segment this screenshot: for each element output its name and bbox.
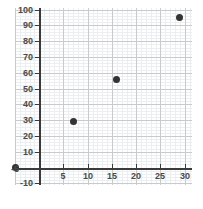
y-tick-label: 30	[0, 116, 33, 125]
y-tick-mark	[35, 41, 39, 42]
gridline-major-vertical	[88, 8, 89, 185]
major-gridlines	[15, 8, 192, 185]
x-tick-label: 20	[124, 172, 148, 181]
gridline-major-horizontal	[15, 104, 192, 105]
scatter-chart: -1010203040506070809010051015202530-5	[0, 0, 203, 209]
y-tick-mark	[35, 25, 39, 26]
x-tick-label: -5	[3, 165, 27, 174]
y-tick-label: 80	[0, 37, 33, 46]
x-tick-label: 10	[76, 172, 100, 181]
y-tick-label: -10	[0, 179, 33, 188]
y-tick-mark	[35, 120, 39, 121]
y-tick-label: 60	[0, 69, 33, 78]
gridline-major-horizontal	[15, 136, 192, 137]
y-tick-mark	[35, 104, 39, 105]
x-tick-label: 25	[148, 172, 172, 181]
y-tick-label: 70	[0, 53, 33, 62]
x-tick-label: 30	[173, 172, 197, 181]
data-point	[70, 118, 77, 125]
gridline-major-vertical	[63, 8, 64, 185]
x-axis-line	[15, 168, 192, 170]
y-tick-mark	[35, 89, 39, 90]
y-tick-mark	[35, 57, 39, 58]
x-tick-mark	[185, 164, 186, 168]
gridline-major-horizontal	[15, 89, 192, 90]
y-tick-label: 50	[0, 85, 33, 94]
gridline-major-vertical	[185, 8, 186, 185]
gridline-major-vertical	[136, 8, 137, 185]
gridline-major-horizontal	[15, 73, 192, 74]
x-tick-mark	[160, 164, 161, 168]
y-tick-mark	[35, 183, 39, 184]
x-tick-mark	[63, 164, 64, 168]
gridline-major-horizontal	[15, 183, 192, 184]
y-tick-mark	[35, 73, 39, 74]
gridline-major-horizontal	[15, 57, 192, 58]
x-tick-mark	[112, 164, 113, 168]
y-axis-line	[39, 8, 41, 185]
y-tick-mark	[35, 10, 39, 11]
y-tick-label: 10	[0, 148, 33, 157]
gridline-major-horizontal	[15, 120, 192, 121]
y-tick-label: 90	[0, 21, 33, 30]
x-tick-label: 5	[51, 172, 75, 181]
x-tick-label: 15	[100, 172, 124, 181]
gridline-major-horizontal	[15, 10, 192, 11]
gridline-major-horizontal	[15, 152, 192, 153]
y-tick-mark	[35, 152, 39, 153]
gridline-major-vertical	[112, 8, 113, 185]
x-tick-mark	[136, 164, 137, 168]
y-tick-mark	[35, 136, 39, 137]
gridline-major-vertical	[160, 8, 161, 185]
gridline-major-horizontal	[15, 41, 192, 42]
plot-area	[15, 8, 192, 185]
y-tick-label: 20	[0, 132, 33, 141]
data-point	[113, 76, 120, 83]
x-tick-mark	[88, 164, 89, 168]
y-tick-label: 40	[0, 100, 33, 109]
gridline-major-vertical	[15, 8, 16, 185]
y-tick-label: 100	[0, 6, 33, 15]
gridline-major-horizontal	[15, 25, 192, 26]
